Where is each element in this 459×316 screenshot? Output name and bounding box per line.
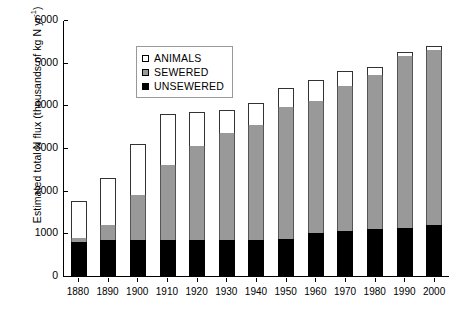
bar-segment-sewered-1950 (278, 107, 294, 238)
bar-segment-unsewered-1920 (189, 240, 205, 276)
x-tick-label: 1910 (156, 286, 178, 297)
x-tick-1950: 1950 (278, 278, 294, 308)
x-tick-mark (78, 278, 79, 282)
bar-1990 (397, 21, 413, 276)
bar-segment-unsewered-1980 (367, 229, 383, 276)
bar-segment-sewered-1990 (397, 56, 413, 228)
bar-segment-sewered-1940 (248, 125, 264, 240)
bar-segment-animals-1900 (130, 144, 146, 195)
x-tick-mark (345, 278, 346, 282)
y-axis-title: Estimated total N flux (thousands of kg … (29, 0, 43, 250)
bar-segment-sewered-1910 (160, 165, 176, 240)
x-tick-1960: 1960 (307, 278, 323, 308)
x-tick-mark (137, 278, 138, 282)
bar-1940 (248, 21, 264, 276)
x-tick-1890: 1890 (100, 278, 116, 308)
bar-segment-sewered-1970 (337, 86, 353, 231)
y-tick-label: 6000 (35, 13, 58, 25)
bar-segment-unsewered-1880 (71, 242, 87, 276)
legend-item-label: ANIMALS (154, 52, 202, 64)
bar-segment-animals-1950 (278, 88, 294, 107)
legend-item-label: SEWERED (154, 66, 209, 78)
bar-segment-animals-1910 (160, 114, 176, 165)
y-axis-title-tail: ) (31, 6, 43, 10)
x-tick-mark (286, 278, 287, 282)
x-tick-1990: 1990 (396, 278, 412, 308)
bar-segment-unsewered-1900 (130, 240, 146, 276)
bar-segment-sewered-1930 (219, 133, 235, 240)
bar-segment-unsewered-1970 (337, 231, 353, 276)
bar-segment-sewered-1890 (100, 225, 116, 240)
bar-segment-animals-1920 (189, 112, 205, 146)
y-tick-label: 3000 (35, 141, 58, 153)
y-tick-label: 0 (52, 269, 58, 281)
white-square-icon (142, 55, 149, 62)
chart-legend: ANIMALSSEWEREDUNSEWERED (136, 46, 233, 98)
bar-segment-unsewered-1990 (397, 228, 413, 276)
x-tick-label: 1880 (67, 286, 89, 297)
x-tick-label: 1960 (304, 286, 326, 297)
bar-segment-sewered-1980 (367, 75, 383, 229)
x-tick-label: 2000 (423, 286, 445, 297)
legend-item-label: UNSEWERED (154, 80, 224, 92)
bar-segment-sewered-1920 (189, 146, 205, 240)
plot-area: 0100020003000400050006000 ANIMALSSEWERED… (63, 21, 449, 277)
bar-segment-animals-1940 (248, 103, 264, 124)
x-tick-mark (404, 278, 405, 282)
bar-segment-sewered-1900 (130, 195, 146, 240)
y-tick-label: 2000 (35, 184, 58, 196)
bar-segment-animals-1980 (367, 67, 383, 76)
x-tick-mark (315, 278, 316, 282)
x-tick-label: 1990 (393, 286, 415, 297)
bar-segment-animals-1960 (308, 80, 324, 101)
bar-segment-animals-1930 (219, 110, 235, 133)
x-tick-1880: 1880 (70, 278, 86, 308)
bar-1950 (278, 21, 294, 276)
x-tick-2000: 2000 (426, 278, 442, 308)
x-tick-label: 1950 (275, 286, 297, 297)
bar-segment-unsewered-1960 (308, 233, 324, 276)
legend-item-unsewered[interactable]: UNSEWERED (142, 79, 224, 93)
x-tick-mark (167, 278, 168, 282)
bar-segment-unsewered-2000 (426, 225, 442, 276)
legend-item-sewered[interactable]: SEWERED (142, 65, 224, 79)
x-tick-label: 1980 (364, 286, 386, 297)
bar-segment-unsewered-1930 (219, 240, 235, 276)
x-tick-label: 1970 (334, 286, 356, 297)
bar-segment-sewered-2000 (426, 50, 442, 225)
gray-square-icon (142, 69, 149, 76)
x-tick-mark (197, 278, 198, 282)
x-tick-label: 1930 (215, 286, 237, 297)
bar-1970 (337, 21, 353, 276)
bar-segment-animals-1880 (71, 201, 87, 237)
bar-segment-sewered-1960 (308, 101, 324, 233)
x-tick-1980: 1980 (367, 278, 383, 308)
bar-2000 (426, 21, 442, 276)
x-axis-ticks: 1880189019001910192019301940195019601970… (63, 278, 449, 308)
bar-segment-unsewered-1910 (160, 240, 176, 276)
bar-segment-animals-1890 (100, 178, 116, 225)
x-tick-mark (375, 278, 376, 282)
bar-group (64, 21, 449, 276)
bar-segment-animals-1970 (337, 71, 353, 86)
bar-1890 (100, 21, 116, 276)
y-tick-mark (64, 276, 68, 277)
x-tick-1900: 1900 (129, 278, 145, 308)
chart-figure: Estimated total N flux (thousands of kg … (0, 0, 459, 316)
x-tick-1920: 1920 (189, 278, 205, 308)
y-tick-label: 4000 (35, 98, 58, 110)
x-tick-1940: 1940 (248, 278, 264, 308)
bar-segment-unsewered-1890 (100, 240, 116, 276)
legend-item-animals[interactable]: ANIMALS (142, 51, 224, 65)
x-tick-1970: 1970 (337, 278, 353, 308)
x-tick-1910: 1910 (159, 278, 175, 308)
y-tick-label: 5000 (35, 56, 58, 68)
x-tick-label: 1920 (185, 286, 207, 297)
x-tick-mark (226, 278, 227, 282)
bar-segment-unsewered-1940 (248, 240, 264, 276)
bar-1960 (308, 21, 324, 276)
x-tick-mark (256, 278, 257, 282)
x-tick-label: 1890 (96, 286, 118, 297)
black-square-icon (142, 83, 149, 90)
x-tick-label: 1900 (126, 286, 148, 297)
